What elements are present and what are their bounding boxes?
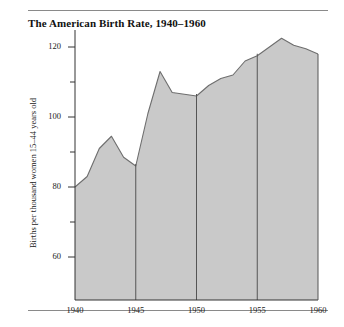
chart-figure: The American Birth Rate, 1940–1960 Birth… [0,0,344,327]
y-tick-label-120: 120 [37,41,61,51]
page-rule-top [28,10,328,11]
x-tick-label-1960: 1960 [301,305,335,315]
x-tick-label-1945: 1945 [119,305,153,315]
chart-title: The American Birth Rate, 1940–1960 [28,17,206,29]
tick-marks [68,47,75,257]
y-axis-label: Births per thousand women 15–44 years ol… [28,78,38,268]
x-tick-label-1940: 1940 [58,305,92,315]
y-tick-label-80: 80 [37,181,61,191]
y-tick-label-60: 60 [37,251,61,261]
y-tick-label-100: 100 [37,111,61,121]
x-tick-label-1950: 1950 [180,305,214,315]
x-tick-label-1955: 1955 [240,305,274,315]
